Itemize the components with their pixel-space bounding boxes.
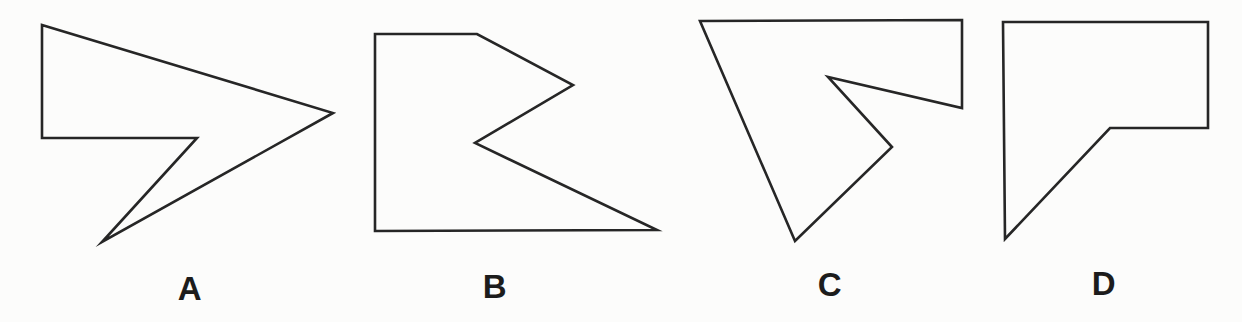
shape-d-polygon	[1003, 22, 1208, 239]
shape-a-label: A	[178, 270, 202, 308]
shape-d-label: D	[1092, 265, 1116, 303]
shape-a-polygon	[42, 25, 333, 242]
shape-b-polygon	[375, 34, 657, 231]
shape-b-label: B	[483, 268, 507, 306]
shape-c-polygon	[700, 20, 962, 241]
shape-c-label: C	[818, 266, 842, 304]
polygon-figure: A B C D	[0, 0, 1242, 322]
